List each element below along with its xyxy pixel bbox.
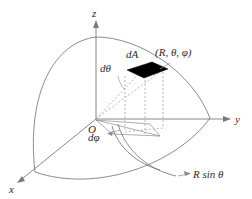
y-axis-label: y (234, 113, 240, 125)
z-axis-arrowhead (93, 20, 99, 28)
spherical-coordinates-figure: z y x O dA (R, θ, φ) dθ dφ R sin θ (0, 0, 252, 199)
y-axis-arrowhead (223, 116, 231, 122)
arc-yz-meridian (96, 37, 210, 118)
diagram-canvas: z y x O dA (R, θ, φ) dθ dφ R sin θ (0, 0, 252, 199)
xy-plane-wedge (96, 120, 160, 136)
point-coordinates-label: (R, θ, φ) (155, 46, 192, 59)
area-element-label: dA (126, 48, 139, 60)
dtheta-label: dθ (100, 62, 112, 74)
dphi-leader-arrowhead (107, 131, 113, 136)
dtheta-arc-marker (118, 76, 124, 89)
ray-theta-lower (96, 72, 160, 119)
rsintheta-leader-arrowhead (184, 171, 191, 176)
arc-dphi-inner (112, 126, 160, 170)
arc-xy-equator (35, 118, 210, 179)
axis-arrowheads (17, 20, 231, 183)
area-element-patch (127, 62, 168, 78)
r-sin-theta-label: R sin θ (192, 168, 224, 180)
coordinate-axes (22, 25, 226, 179)
x-axis-label: x (8, 183, 14, 195)
dphi-label: dφ (88, 131, 100, 143)
z-axis-label: z (91, 7, 97, 19)
sphere-octant-outline (33, 37, 210, 179)
arc-xz-meridian (33, 37, 96, 172)
